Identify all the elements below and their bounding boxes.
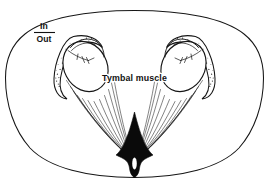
diagram-canvas: In Out Tymbal muscle Tymbal muscle bbox=[0, 0, 269, 182]
out-label: Out bbox=[36, 34, 51, 44]
left-tymbal-organ bbox=[54, 33, 117, 99]
central-apodeme-wedge bbox=[116, 112, 153, 178]
in-out-label: In Out bbox=[34, 21, 55, 44]
in-label: In bbox=[40, 21, 48, 31]
ventral-slit bbox=[132, 158, 137, 170]
tymbal-muscle-label: Tymbal muscle Tymbal muscle bbox=[102, 73, 167, 83]
right-tymbal-organ bbox=[152, 33, 215, 99]
tymbal-diagram-figure: In Out Tymbal muscle Tymbal muscle bbox=[0, 0, 269, 182]
tymbal-muscle-label-text: Tymbal muscle bbox=[102, 73, 167, 83]
